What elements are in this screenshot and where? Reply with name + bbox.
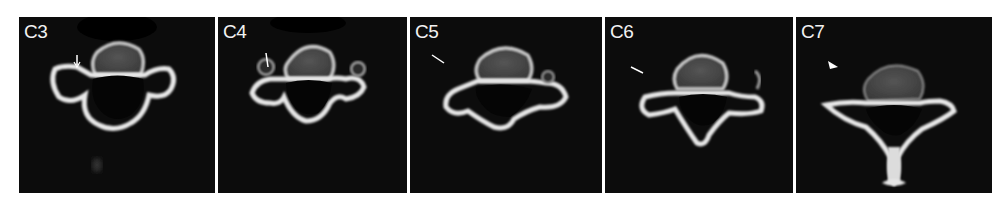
vertebra-c7-image — [796, 17, 992, 193]
vertebra-label: C3 — [24, 21, 47, 43]
vertebra-c5-image — [410, 17, 602, 193]
vertebra-label: C4 — [223, 21, 246, 43]
vertebra-c4-image — [218, 17, 407, 193]
ct-panel-c7: C7 — [796, 17, 992, 193]
ct-panel-c4: C4 — [218, 17, 407, 193]
ct-panel-c3: C3 — [19, 17, 215, 193]
ct-panel-c5: C5 — [410, 17, 602, 193]
vertebra-label: C7 — [801, 21, 824, 43]
arrow-icon — [631, 67, 643, 73]
vertebra-label: C6 — [610, 21, 633, 43]
arrow-icon — [432, 55, 444, 63]
vertebra-c6-image — [605, 17, 793, 193]
vertebra-c3-image — [19, 17, 215, 193]
vertebra-label: C5 — [415, 21, 438, 43]
ct-panel-c6: C6 — [605, 17, 793, 193]
arrowhead-icon — [828, 61, 838, 69]
